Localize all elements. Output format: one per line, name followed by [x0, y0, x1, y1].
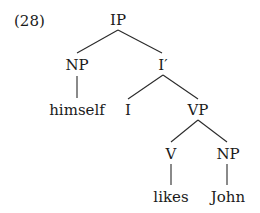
- edge-ip-np: [77, 30, 118, 53]
- edge-ip-ibar: [118, 30, 162, 53]
- node-i: I: [125, 102, 131, 118]
- node-v: V: [166, 146, 177, 162]
- edge-vp-v: [171, 120, 198, 142]
- node-john: John: [211, 189, 245, 205]
- node-himself: himself: [49, 102, 105, 118]
- node-vp: VP: [188, 102, 209, 118]
- example-number: (28): [14, 13, 45, 29]
- node-likes: likes: [153, 189, 188, 205]
- node-np-subject: NP: [65, 57, 88, 73]
- node-ip: IP: [110, 12, 126, 28]
- syntax-tree-diagram: (28) IP NP I′ himself I VP V NP likes Jo…: [0, 0, 260, 213]
- edge-ibar-vp: [163, 75, 198, 99]
- edge-vp-np: [198, 120, 227, 142]
- edge-ibar-i: [128, 75, 163, 99]
- node-i-bar: I′: [158, 57, 167, 73]
- node-np-object: NP: [216, 146, 239, 162]
